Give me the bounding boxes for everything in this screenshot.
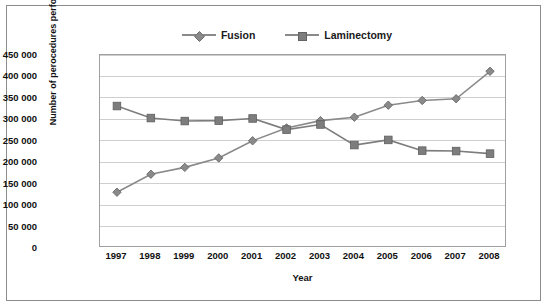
data-point-laminectomy-2005 xyxy=(384,136,392,144)
data-point-laminectomy-2008 xyxy=(486,150,494,158)
data-point-laminectomy-2001 xyxy=(249,115,257,123)
series-layer xyxy=(100,55,507,248)
y-axis-tick-label: 50 000 xyxy=(0,220,37,231)
y-axis-tick-label: 150 000 xyxy=(0,177,37,188)
y-axis-tick-label: 0 xyxy=(0,242,37,253)
x-axis-tick-label: 2008 xyxy=(469,250,509,261)
chart-inner: Fusion Laminectomy Number of perocedures… xyxy=(7,6,540,300)
y-axis-tick-label: 300 000 xyxy=(0,113,37,124)
y-axis-tick-label: 100 000 xyxy=(0,199,37,210)
legend-marker-square-icon xyxy=(285,30,319,40)
plot-area xyxy=(99,54,506,247)
data-point-laminectomy-2007 xyxy=(452,147,460,155)
y-axis-tick-label: 450 000 xyxy=(0,49,37,60)
data-point-laminectomy-1998 xyxy=(147,114,155,122)
data-point-fusion-2001 xyxy=(248,137,256,145)
chart-legend: Fusion Laminectomy xyxy=(157,24,417,46)
data-point-laminectomy-2006 xyxy=(418,147,426,155)
series-line-laminectomy xyxy=(117,106,490,154)
y-axis-tick-label: 400 000 xyxy=(0,70,37,81)
legend-item-fusion: Fusion xyxy=(182,29,255,41)
data-point-laminectomy-1999 xyxy=(181,117,189,125)
data-point-laminectomy-2004 xyxy=(351,141,359,149)
data-point-fusion-2005 xyxy=(384,101,392,109)
x-axis-title: Year xyxy=(99,272,506,283)
data-point-laminectomy-2000 xyxy=(215,117,223,125)
y-axis-tick-label: 250 000 xyxy=(0,134,37,145)
data-point-fusion-2004 xyxy=(350,113,358,121)
series-line-fusion xyxy=(117,71,490,192)
data-point-laminectomy-2003 xyxy=(317,121,325,129)
legend-item-laminectomy: Laminectomy xyxy=(285,29,392,41)
y-axis-tick-label: 200 000 xyxy=(0,156,37,167)
legend-label-fusion: Fusion xyxy=(221,29,255,41)
data-point-fusion-2000 xyxy=(215,154,223,162)
data-point-fusion-1999 xyxy=(181,163,189,171)
data-point-fusion-1998 xyxy=(147,170,155,178)
chart-container: Fusion Laminectomy Number of perocedures… xyxy=(6,5,541,301)
data-point-laminectomy-2002 xyxy=(283,126,291,134)
legend-label-laminectomy: Laminectomy xyxy=(324,29,392,41)
y-axis-tick-label: 350 000 xyxy=(0,91,37,102)
data-point-fusion-2006 xyxy=(418,96,426,104)
legend-marker-diamond-icon xyxy=(182,30,216,40)
y-axis-title: Number of perocedures performed xyxy=(48,0,58,141)
data-point-fusion-1997 xyxy=(113,188,121,196)
data-point-laminectomy-1997 xyxy=(113,102,121,110)
